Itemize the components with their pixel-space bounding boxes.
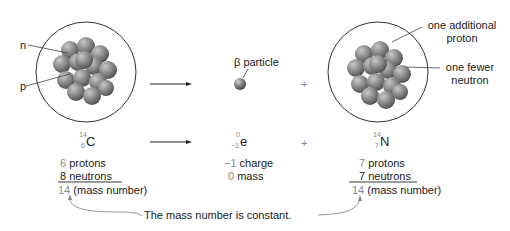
carbon-atomic-number: 6 <box>81 142 85 149</box>
nitrogen-atomic-number: 7 <box>375 142 379 149</box>
neutron-label: n <box>20 39 26 51</box>
electron-mass-number: 0 <box>236 131 240 138</box>
nitrogen-neutrons: 7 neutrons <box>359 170 411 182</box>
nitrogen-14-symbol: 14 7 N <box>380 134 389 149</box>
carbon-mass-number-line: 14 (mass number) <box>58 184 147 196</box>
carbon-element: C <box>86 134 95 149</box>
electron-symbol: 0 −1 e <box>240 134 247 149</box>
additional-proton-line1: one additional <box>424 19 500 32</box>
plus-sign-top: + <box>301 78 307 90</box>
additional-proton-line2: proton <box>424 32 500 45</box>
electron-element: e <box>240 134 247 149</box>
nitrogen-mass-number-line: 14 (mass number) <box>352 184 441 196</box>
carbon-mass-number: 14 <box>79 131 87 138</box>
fewer-neutron-line1: one fewer <box>442 61 498 74</box>
nitrogen-mass-number: 14 <box>373 131 381 138</box>
nitrogen-neutrons-text: neutrons <box>365 170 411 182</box>
electron-mass: 0 mass <box>228 170 263 182</box>
nitrogen-protons-text: protons <box>365 157 405 169</box>
fewer-neutron-label: one fewer neutron <box>442 61 498 87</box>
fewer-neutron-line2: neutron <box>442 74 498 87</box>
carbon-nucleus-diagram <box>26 22 136 122</box>
proton-label: p <box>20 80 26 92</box>
electron-charge: −1 charge <box>224 157 273 169</box>
carbon-mass-text: (mass number) <box>70 184 147 196</box>
nitrogen-protons: 7 protons <box>359 157 405 169</box>
beta-particle-label: β particle <box>234 56 279 68</box>
carbon-mass-count: 14 <box>58 184 70 196</box>
additional-proton-label: one additional proton <box>424 19 500 45</box>
annotation-curve-left <box>70 196 142 216</box>
electron-charge-number: −1 <box>231 142 239 149</box>
carbon-protons: 6 protons <box>60 157 106 169</box>
electron-mass-text: mass <box>234 170 263 182</box>
carbon-neutrons-text: neutrons <box>66 170 112 182</box>
electron-charge-text: charge <box>237 157 274 169</box>
nitrogen-mass-text: (mass number) <box>364 184 441 196</box>
carbon-14-symbol: 14 6 C <box>86 134 95 149</box>
nitrogen-mass-count: 14 <box>352 184 364 196</box>
plus-sign-bottom: + <box>301 137 307 149</box>
carbon-neutrons: 8 neutrons <box>60 170 112 182</box>
reaction-arrow-bottom <box>150 140 192 144</box>
annotation-curve-right <box>318 198 360 215</box>
nitrogen-element: N <box>380 134 389 149</box>
reaction-arrow-top <box>150 82 192 86</box>
carbon-protons-text: protons <box>66 157 106 169</box>
mass-number-constant-annotation: The mass number is constant. <box>144 209 291 221</box>
electron-charge-count: −1 <box>224 157 237 169</box>
beta-particle-diagram <box>234 69 248 90</box>
